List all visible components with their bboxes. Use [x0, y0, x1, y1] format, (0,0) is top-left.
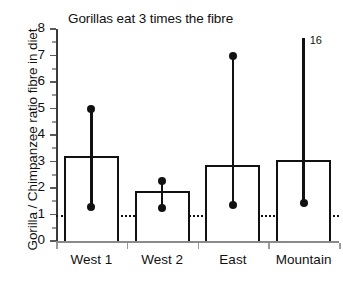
x-tick-label: Mountain: [276, 252, 332, 267]
x-tick-label: West 2: [141, 252, 183, 267]
y-tick-label: 3: [0, 153, 45, 168]
y-axis-line: [56, 29, 58, 243]
chart-title: Gorillas eat 3 times the fibre: [68, 11, 233, 26]
error-bar-line: [302, 38, 304, 203]
x-tick-mark: [198, 243, 200, 249]
offscale-value-label: 16: [310, 34, 322, 46]
y-tick-mark: [50, 108, 56, 110]
y-tick-mark-minor: [52, 121, 56, 123]
error-bar-lower-marker: [158, 204, 166, 212]
error-bar-lower-marker: [300, 199, 308, 207]
error-bar-upper-marker: [87, 105, 95, 113]
x-tick-label: West 1: [70, 252, 112, 267]
y-tick-label: 7: [0, 47, 45, 62]
y-tick-mark: [50, 187, 56, 189]
error-bar-upper-marker: [158, 177, 166, 185]
x-tick-mark: [339, 243, 341, 249]
error-bar-lower-marker: [229, 201, 237, 209]
y-tick-mark: [50, 28, 56, 30]
x-tick-mark: [127, 243, 129, 249]
y-tick-mark-minor: [52, 174, 56, 176]
y-tick-label: 5: [0, 100, 45, 115]
y-tick-label: 2: [0, 179, 45, 194]
error-bar-lower-marker: [87, 203, 95, 211]
x-tick-mark: [56, 243, 58, 249]
y-tick-mark-minor: [52, 68, 56, 70]
y-tick-mark: [50, 81, 56, 83]
y-tick-mark-minor: [52, 227, 56, 229]
y-tick-label: 0: [0, 232, 45, 247]
y-tick-label: 1: [0, 206, 45, 221]
x-tick-mark: [268, 243, 270, 249]
error-bar-line: [90, 109, 92, 207]
chart-figure: Gorillas eat 3 times the fibre Gorilla /…: [0, 0, 343, 286]
y-tick-mark-minor: [52, 41, 56, 43]
x-tick-label: East: [219, 252, 246, 267]
error-bar-upper-marker: [229, 52, 237, 60]
y-tick-mark-minor: [52, 94, 56, 96]
y-tick-mark: [50, 55, 56, 57]
y-tick-mark: [50, 240, 56, 242]
error-bar-line: [232, 56, 234, 206]
y-tick-label: 4: [0, 126, 45, 141]
y-tick-label: 6: [0, 73, 45, 88]
y-tick-mark-minor: [52, 200, 56, 202]
y-tick-mark: [50, 134, 56, 136]
y-tick-label: 8: [0, 20, 45, 35]
y-tick-mark: [50, 161, 56, 163]
y-tick-mark-minor: [52, 147, 56, 149]
